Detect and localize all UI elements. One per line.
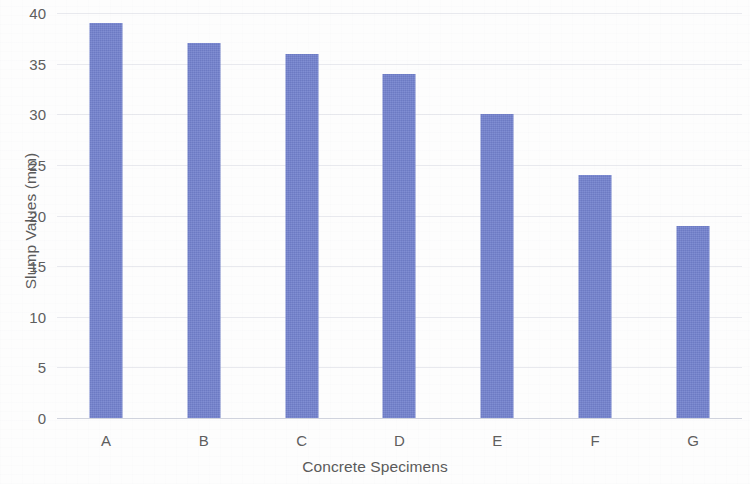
bar-b — [187, 43, 220, 418]
y-axis-tick-label: 0 — [38, 410, 46, 427]
bar-e — [481, 114, 514, 418]
bars-layer: ABCDEFG — [57, 13, 742, 418]
x-axis-tick-label: D — [394, 432, 405, 449]
gridline — [57, 418, 742, 419]
bar-group: B — [155, 13, 253, 418]
x-axis-tick-label: E — [492, 432, 502, 449]
x-axis-tick-label: C — [296, 432, 307, 449]
bar-d — [383, 74, 416, 418]
bar-group: D — [351, 13, 449, 418]
bar-c — [285, 54, 318, 419]
y-axis-tick-label: 35 — [29, 55, 46, 72]
bar-chart-figure: 0510152025303540 ABCDEFG Slump Values (m… — [0, 0, 750, 484]
bar-group: F — [546, 13, 644, 418]
bar-group: C — [253, 13, 351, 418]
x-axis-tick-label: A — [101, 432, 111, 449]
plot-area: 0510152025303540 ABCDEFG — [57, 13, 742, 418]
x-axis-tick-label: G — [687, 432, 699, 449]
bar-group: E — [448, 13, 546, 418]
bar-f — [579, 175, 612, 418]
bar-a — [89, 23, 122, 418]
y-axis-tick-label: 5 — [38, 359, 46, 376]
bar-group: G — [644, 13, 742, 418]
y-axis-tick-label: 40 — [29, 5, 46, 22]
y-axis-title: Slump Values (mm) — [22, 106, 40, 336]
x-axis-tick-label: F — [591, 432, 600, 449]
x-axis-tick-label: B — [199, 432, 209, 449]
x-axis-title: Concrete Specimens — [0, 458, 750, 476]
bar-group: A — [57, 13, 155, 418]
bar-g — [677, 226, 710, 418]
